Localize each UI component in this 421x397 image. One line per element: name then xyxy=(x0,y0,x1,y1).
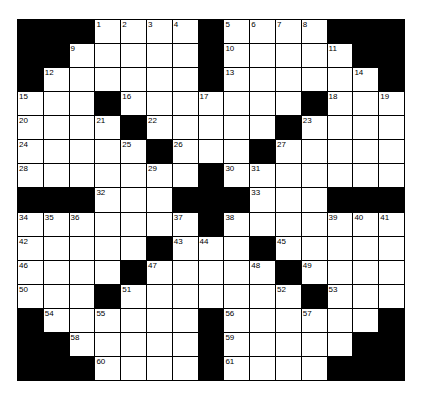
grid-cell[interactable] xyxy=(95,333,120,356)
grid-cell[interactable] xyxy=(121,213,146,236)
grid-cell[interactable] xyxy=(173,164,198,187)
grid-cell[interactable]: 57 xyxy=(302,309,327,332)
grid-cell[interactable] xyxy=(70,92,95,115)
grid-cell[interactable] xyxy=(121,44,146,67)
grid-cell[interactable]: 1 xyxy=(95,20,120,43)
grid-cell[interactable]: 11 xyxy=(328,44,353,67)
grid-cell[interactable]: 59 xyxy=(224,333,249,356)
grid-cell[interactable]: 42 xyxy=(18,237,43,260)
grid-cell[interactable] xyxy=(199,116,224,139)
grid-cell[interactable]: 16 xyxy=(121,92,146,115)
grid-cell[interactable]: 31 xyxy=(250,164,275,187)
grid-cell[interactable] xyxy=(302,237,327,260)
grid-cell[interactable]: 56 xyxy=(224,309,249,332)
grid-cell[interactable] xyxy=(379,140,404,163)
grid-cell[interactable] xyxy=(70,164,95,187)
grid-cell[interactable]: 2 xyxy=(121,20,146,43)
grid-cell[interactable] xyxy=(70,237,95,260)
grid-cell[interactable] xyxy=(276,92,301,115)
grid-cell[interactable] xyxy=(250,213,275,236)
grid-cell[interactable] xyxy=(173,44,198,67)
grid-cell[interactable]: 8 xyxy=(302,20,327,43)
grid-cell[interactable] xyxy=(276,188,301,211)
grid-cell[interactable] xyxy=(224,285,249,308)
grid-cell[interactable] xyxy=(121,333,146,356)
grid-cell[interactable]: 21 xyxy=(95,116,120,139)
grid-cell[interactable] xyxy=(328,116,353,139)
grid-cell[interactable] xyxy=(353,261,378,284)
grid-cell[interactable] xyxy=(302,44,327,67)
grid-cell[interactable]: 49 xyxy=(302,261,327,284)
grid-cell[interactable]: 34 xyxy=(18,213,43,236)
grid-cell[interactable] xyxy=(224,140,249,163)
grid-cell[interactable]: 58 xyxy=(70,333,95,356)
grid-cell[interactable] xyxy=(353,285,378,308)
grid-cell[interactable] xyxy=(328,309,353,332)
grid-cell[interactable]: 26 xyxy=(173,140,198,163)
grid-cell[interactable]: 44 xyxy=(199,237,224,260)
grid-cell[interactable]: 5 xyxy=(224,20,249,43)
grid-cell[interactable] xyxy=(302,213,327,236)
grid-cell[interactable]: 55 xyxy=(95,309,120,332)
grid-cell[interactable] xyxy=(44,261,69,284)
grid-cell[interactable]: 32 xyxy=(95,188,120,211)
grid-cell[interactable] xyxy=(199,261,224,284)
grid-cell[interactable] xyxy=(147,285,172,308)
grid-cell[interactable]: 51 xyxy=(121,285,146,308)
grid-cell[interactable] xyxy=(147,309,172,332)
grid-cell[interactable]: 22 xyxy=(147,116,172,139)
grid-cell[interactable] xyxy=(328,140,353,163)
grid-cell[interactable] xyxy=(302,68,327,91)
grid-cell[interactable] xyxy=(173,68,198,91)
grid-cell[interactable] xyxy=(353,309,378,332)
grid-cell[interactable] xyxy=(302,164,327,187)
grid-cell[interactable]: 43 xyxy=(173,237,198,260)
grid-cell[interactable] xyxy=(70,140,95,163)
grid-cell[interactable]: 20 xyxy=(18,116,43,139)
grid-cell[interactable] xyxy=(250,357,275,380)
grid-cell[interactable]: 29 xyxy=(147,164,172,187)
grid-cell[interactable] xyxy=(379,237,404,260)
grid-cell[interactable] xyxy=(353,116,378,139)
grid-cell[interactable]: 25 xyxy=(121,140,146,163)
grid-cell[interactable] xyxy=(95,237,120,260)
grid-cell[interactable] xyxy=(121,309,146,332)
grid-cell[interactable] xyxy=(276,164,301,187)
grid-cell[interactable] xyxy=(95,261,120,284)
grid-cell[interactable] xyxy=(276,68,301,91)
grid-cell[interactable] xyxy=(379,261,404,284)
grid-cell[interactable] xyxy=(173,333,198,356)
grid-cell[interactable] xyxy=(353,92,378,115)
grid-cell[interactable]: 40 xyxy=(353,213,378,236)
grid-cell[interactable] xyxy=(328,164,353,187)
grid-cell[interactable] xyxy=(328,261,353,284)
grid-cell[interactable]: 41 xyxy=(379,213,404,236)
grid-cell[interactable] xyxy=(95,68,120,91)
grid-cell[interactable] xyxy=(199,140,224,163)
grid-cell[interactable]: 48 xyxy=(250,261,275,284)
grid-cell[interactable]: 53 xyxy=(328,285,353,308)
grid-cell[interactable]: 18 xyxy=(328,92,353,115)
grid-cell[interactable] xyxy=(250,44,275,67)
grid-cell[interactable] xyxy=(95,140,120,163)
grid-cell[interactable] xyxy=(70,285,95,308)
grid-cell[interactable] xyxy=(173,116,198,139)
grid-cell[interactable] xyxy=(328,68,353,91)
grid-cell[interactable] xyxy=(147,213,172,236)
grid-cell[interactable] xyxy=(224,116,249,139)
grid-cell[interactable]: 10 xyxy=(224,44,249,67)
grid-cell[interactable] xyxy=(250,92,275,115)
grid-cell[interactable]: 60 xyxy=(95,357,120,380)
grid-cell[interactable] xyxy=(147,357,172,380)
grid-cell[interactable] xyxy=(353,164,378,187)
grid-cell[interactable] xyxy=(95,164,120,187)
grid-cell[interactable]: 46 xyxy=(18,261,43,284)
grid-cell[interactable]: 28 xyxy=(18,164,43,187)
grid-cell[interactable]: 24 xyxy=(18,140,43,163)
grid-cell[interactable]: 4 xyxy=(173,20,198,43)
grid-cell[interactable]: 37 xyxy=(173,213,198,236)
grid-cell[interactable]: 39 xyxy=(328,213,353,236)
grid-cell[interactable]: 19 xyxy=(379,92,404,115)
grid-cell[interactable] xyxy=(302,140,327,163)
grid-cell[interactable]: 6 xyxy=(250,20,275,43)
